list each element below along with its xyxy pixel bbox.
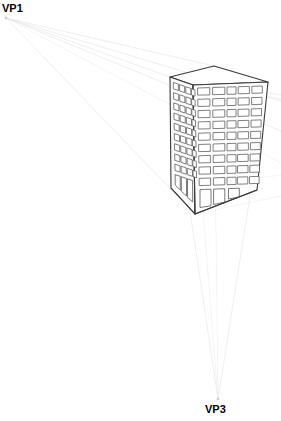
vp1-marker (5, 17, 8, 20)
vp3-marker (217, 398, 220, 401)
building-perspective-svg (0, 0, 281, 421)
right-face-windows (198, 86, 263, 186)
vp3-label: VP3 (205, 403, 226, 415)
perspective-drawing-canvas: VP1 VP3 (0, 0, 281, 421)
vp1-label: VP1 (2, 2, 23, 14)
